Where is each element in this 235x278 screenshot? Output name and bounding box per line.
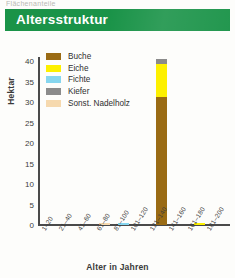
legend-item[interactable]: Eiche [46,63,130,75]
page-title: Altersstruktur [16,12,108,27]
header-gloss [110,9,230,31]
bar-slot[interactable] [133,57,152,225]
y-tick-label: 20 [10,139,34,148]
x-tick-slot: 41–60 [76,226,95,260]
x-tick-slot: 101–120 [133,226,152,260]
legend-swatch-icon [46,65,61,72]
y-tick-label: 0 [10,221,34,230]
legend-swatch-icon [46,76,61,83]
chart-legend: BucheEicheFichteKieferSonst. Nadelholz [46,51,130,109]
y-tick-label: 30 [10,98,34,107]
legend-item[interactable]: Buche [46,51,130,63]
x-tick-slot: 121–140 [152,226,171,260]
x-axis-label: Alter in Jahren [0,262,235,272]
chart-card: Flächenanteile Altersstruktur Hektar 403… [0,0,235,278]
x-axis-ticks: 1–2021–4041–6061–8081–100101–120121–1401… [38,226,228,260]
y-tick-label: 5 [10,200,34,209]
y-tick-label: 15 [10,159,34,168]
bar-slot[interactable] [209,57,228,225]
x-tick-slot: 61–80 [95,226,114,260]
x-tick-slot: 161–180 [190,226,209,260]
y-tick-label: 35 [10,77,34,86]
y-tick-label: 40 [10,57,34,66]
cutoff-heading-text: Flächenanteile [6,0,156,7]
legend-swatch-icon [46,88,61,95]
legend-swatch-icon [46,100,61,107]
legend-label: Sonst. Nadelholz [68,99,130,108]
stacked-bar[interactable] [156,59,167,225]
legend-label: Eiche [68,64,88,73]
x-tick-slot: 1–20 [38,226,57,260]
y-tick-label: 25 [10,118,34,127]
legend-item[interactable]: Kiefer [46,86,130,98]
legend-item[interactable]: Fichte [46,74,130,86]
x-tick-slot: 81–100 [114,226,133,260]
legend-label: Fichte [68,75,90,84]
bar-slot[interactable] [171,57,190,225]
x-tick-slot: 141–160 [171,226,190,260]
x-tick-slot: 181–200 [209,226,228,260]
legend-label: Kiefer [68,87,89,96]
x-tick-slot: 21–40 [57,226,76,260]
y-axis-ticks: 4035302520151050 [8,57,34,225]
bar-segment-eiche[interactable] [156,64,167,97]
legend-item[interactable]: Sonst. Nadelholz [46,97,130,109]
legend-swatch-icon [46,53,61,60]
legend-label: Buche [68,52,91,61]
card-header: Altersstruktur [5,9,230,31]
y-tick-label: 10 [10,180,34,189]
bar-slot[interactable] [190,57,209,225]
bar-slot[interactable] [152,57,171,225]
